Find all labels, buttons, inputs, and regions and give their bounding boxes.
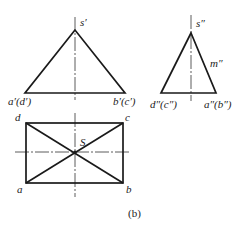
side-view: s″ m″ d″(c″) a″(b″) bbox=[150, 15, 232, 111]
label-a: a bbox=[17, 183, 23, 195]
front-view: s′ a′(d′) b′(c′) bbox=[8, 16, 136, 108]
label-a-b-double-prime: a″(b″) bbox=[204, 98, 232, 111]
label-a-prime-d-prime: a′(d′) bbox=[8, 95, 31, 108]
side-view-triangle bbox=[161, 33, 216, 93]
label-d: d bbox=[15, 111, 21, 123]
pyramid-projection-diagram: s′ a′(d′) b′(c′) s″ m″ d″(c″) a″(b″) d c… bbox=[0, 0, 235, 225]
label-b-prime-c-prime: b′(c′) bbox=[113, 95, 136, 108]
apex-point bbox=[73, 150, 76, 153]
label-d-c-double-prime: d″(c″) bbox=[150, 98, 177, 111]
figure-caption: (b) bbox=[128, 207, 141, 220]
label-b: b bbox=[126, 183, 132, 195]
top-view: d c a b S bbox=[15, 111, 132, 197]
label-s-double-prime: s″ bbox=[196, 17, 205, 29]
label-s-prime: s′ bbox=[80, 16, 87, 28]
label-c: c bbox=[125, 111, 130, 123]
label-S: S bbox=[80, 136, 86, 148]
label-m-double-prime: m″ bbox=[210, 57, 223, 69]
